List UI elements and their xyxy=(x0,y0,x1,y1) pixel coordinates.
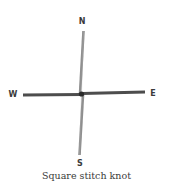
diagram-caption: Square stitch knot xyxy=(0,171,173,181)
label-east: E xyxy=(150,90,155,98)
label-north: N xyxy=(79,18,86,26)
knot-center xyxy=(79,91,84,96)
square-stitch-knot-diagram: N W E S Square stitch knot xyxy=(0,0,173,185)
label-west: W xyxy=(9,91,18,99)
label-south: S xyxy=(77,160,83,168)
knot-illustration xyxy=(0,0,173,185)
